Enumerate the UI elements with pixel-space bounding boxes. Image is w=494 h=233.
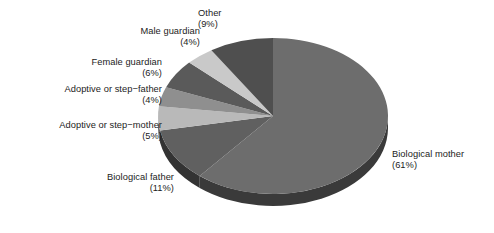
pie-label-other: Other (9%) <box>198 8 222 31</box>
pie-label-other-percent: (9%) <box>198 19 222 30</box>
pie-label-adoptive-or-step-father: Adoptive or step−father (4%) <box>28 84 162 107</box>
pie-chart: Other (9%) Male guardian (4%) Female gua… <box>0 0 494 233</box>
pie-label-female-guardian-percent: (6%) <box>78 68 162 79</box>
pie-label-biological-father: Biological father (11%) <box>78 172 174 195</box>
pie-label-biological-mother: Biological mother (61%) <box>392 149 488 172</box>
pie-label-biological-father-percent: (11%) <box>78 183 174 194</box>
pie-label-biological-mother-name: Biological mother <box>392 149 488 160</box>
pie-chart-canvas <box>0 0 494 233</box>
pie-label-adoptive-or-step-mother: Adoptive or step−mother (5%) <box>20 120 162 143</box>
pie-label-adoptive-or-step-father-name: Adoptive or step−father <box>28 84 162 95</box>
pie-label-female-guardian-name: Female guardian <box>78 57 162 68</box>
pie-label-male-guardian-name: Male guardian <box>116 26 200 37</box>
pie-label-male-guardian: Male guardian (4%) <box>116 26 200 49</box>
pie-label-female-guardian: Female guardian (6%) <box>78 57 162 80</box>
pie-label-biological-father-name: Biological father <box>78 172 174 183</box>
pie-label-biological-mother-percent: (61%) <box>392 160 488 171</box>
pie-label-adoptive-or-step-mother-name: Adoptive or step−mother <box>20 120 162 131</box>
pie-label-adoptive-or-step-mother-percent: (5%) <box>20 131 162 142</box>
pie-label-male-guardian-percent: (4%) <box>116 37 200 48</box>
pie-label-other-name: Other <box>198 8 222 19</box>
pie-label-adoptive-or-step-father-percent: (4%) <box>28 95 162 106</box>
pie-top-face <box>158 38 388 194</box>
